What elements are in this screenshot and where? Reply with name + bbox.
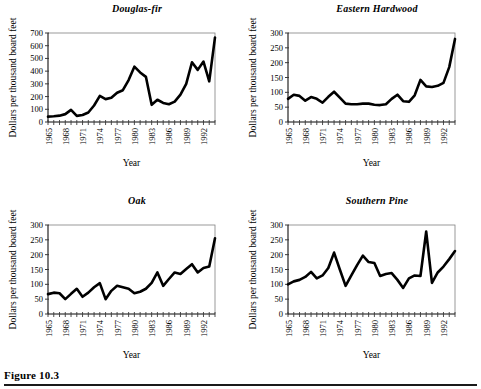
x-axis-label: Year (363, 158, 381, 168)
x-tick-label: 1971 (78, 128, 88, 145)
data-series-line (48, 238, 215, 299)
y-tick-label: 200 (30, 92, 43, 102)
x-tick-label: 1992 (439, 320, 449, 337)
x-tick-label: 1986 (404, 320, 414, 337)
x-axis-label: Year (363, 350, 381, 360)
x-tick-label: 1971 (318, 320, 328, 337)
x-tick-label: 1992 (199, 128, 209, 145)
y-tick-label: 100 (30, 104, 43, 114)
y-tick-label: 250 (270, 235, 283, 245)
chart-svg-oak: 0501001502002503001965196819711974197719… (0, 192, 240, 384)
data-series-line (288, 39, 455, 105)
x-tick-label: 1989 (422, 128, 432, 145)
x-tick-label: 1980 (130, 320, 140, 337)
x-tick-label: 1968 (301, 320, 311, 337)
x-tick-label: 1974 (95, 127, 105, 145)
x-tick-label: 1965 (284, 128, 294, 145)
y-tick-label: 0 (39, 117, 43, 127)
x-tick-label: 1986 (164, 128, 174, 145)
plot-frame (48, 33, 215, 122)
x-tick-label: 1992 (439, 128, 449, 145)
y-axis-label: Dollars per thousand board feet (248, 17, 258, 137)
chart-panel-southern-pine: Southern Pine 05010015020025030019651968… (240, 192, 480, 384)
y-axis-label: Dollars per thousand board feet (8, 209, 18, 329)
y-tick-label: 250 (270, 43, 283, 53)
y-tick-label: 50 (35, 294, 44, 304)
x-tick-label: 1989 (182, 128, 192, 145)
plot-frame (48, 225, 215, 314)
chart-svg-douglas-fir: 0100200300400500600700196519681971197419… (0, 0, 240, 192)
y-tick-label: 300 (30, 79, 43, 89)
y-axis-label: Dollars per thousand board feet (248, 209, 258, 329)
data-series-line (288, 232, 455, 288)
y-tick-label: 200 (270, 58, 283, 68)
y-tick-label: 0 (279, 117, 283, 127)
y-tick-label: 300 (270, 28, 283, 38)
x-tick-label: 1977 (113, 320, 123, 337)
y-tick-label: 0 (39, 309, 43, 319)
x-tick-label: 1971 (78, 320, 88, 337)
x-tick-label: 1980 (370, 320, 380, 337)
y-tick-label: 500 (30, 53, 43, 63)
y-tick-label: 250 (30, 235, 43, 245)
x-tick-label: 1992 (199, 320, 209, 337)
x-tick-label: 1977 (353, 128, 363, 145)
data-series-line (48, 37, 215, 116)
y-tick-label: 600 (30, 41, 43, 51)
x-tick-label: 1983 (387, 320, 397, 337)
x-tick-label: 1989 (422, 320, 432, 337)
figure-10-3: Douglas-fir 0100200300400500600700196519… (0, 0, 481, 389)
x-tick-label: 1965 (284, 320, 294, 337)
x-tick-label: 1974 (335, 319, 345, 337)
y-tick-label: 150 (270, 265, 283, 275)
y-tick-label: 50 (275, 102, 284, 112)
y-tick-label: 100 (270, 279, 283, 289)
y-tick-label: 300 (30, 220, 43, 230)
plot-frame (288, 33, 455, 122)
chart-panel-douglas-fir: Douglas-fir 0100200300400500600700196519… (0, 0, 240, 192)
x-tick-label: 1968 (61, 128, 71, 145)
x-tick-label: 1974 (335, 127, 345, 145)
x-tick-label: 1989 (182, 320, 192, 337)
chart-panel-eastern-hardwood: Eastern Hardwood 05010015020025030019651… (240, 0, 480, 192)
x-tick-label: 1986 (404, 128, 414, 145)
y-tick-label: 400 (30, 66, 43, 76)
x-tick-label: 1986 (164, 320, 174, 337)
x-axis-label: Year (123, 350, 141, 360)
x-tick-label: 1974 (95, 319, 105, 337)
x-tick-label: 1983 (387, 128, 397, 145)
y-tick-label: 150 (30, 265, 43, 275)
y-tick-label: 700 (30, 28, 43, 38)
x-tick-label: 1983 (147, 128, 157, 145)
y-tick-label: 200 (270, 250, 283, 260)
x-axis-label: Year (123, 158, 141, 168)
x-tick-label: 1968 (301, 128, 311, 145)
figure-caption: Figure 10.3 (4, 369, 59, 381)
y-tick-label: 150 (270, 73, 283, 83)
x-tick-label: 1983 (147, 320, 157, 337)
y-tick-label: 200 (30, 250, 43, 260)
chart-panel-oak: Oak 050100150200250300196519681971197419… (0, 192, 240, 384)
x-tick-label: 1965 (44, 128, 54, 145)
y-tick-label: 100 (30, 279, 43, 289)
x-tick-label: 1977 (113, 128, 123, 145)
y-tick-label: 300 (270, 220, 283, 230)
x-tick-label: 1971 (318, 128, 328, 145)
y-axis-label: Dollars per thousand board feet (8, 17, 18, 137)
x-tick-label: 1968 (61, 320, 71, 337)
x-tick-label: 1965 (44, 320, 54, 337)
x-tick-label: 1980 (130, 128, 140, 145)
chart-svg-eastern-hardwood: 0501001502002503001965196819711974197719… (240, 0, 480, 192)
x-tick-label: 1977 (353, 320, 363, 337)
y-tick-label: 0 (279, 309, 283, 319)
y-tick-label: 50 (275, 294, 284, 304)
chart-svg-southern-pine: 0501001502002503001965196819711974197719… (240, 192, 480, 384)
y-tick-label: 100 (270, 87, 283, 97)
figure-divider-rule (4, 384, 477, 386)
x-tick-label: 1980 (370, 128, 380, 145)
